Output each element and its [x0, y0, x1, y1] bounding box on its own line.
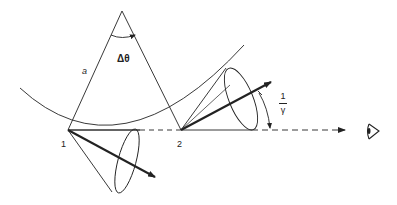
gamma-denominator: γ — [281, 105, 286, 115]
gamma-numerator: 1 — [280, 91, 285, 101]
delta-theta-arc — [111, 35, 135, 38]
point-2-label: 2 — [177, 140, 182, 149]
gamma-fraction-label: 1 γ — [277, 92, 289, 115]
velocity-arrow-1 — [68, 130, 155, 177]
radius-line-2 — [122, 11, 181, 130]
fraction-bar — [279, 103, 287, 104]
radius-label: a — [82, 67, 87, 76]
gamma-angle-arc — [259, 93, 270, 128]
radius-line-1 — [68, 11, 122, 130]
emission-cone-1 — [68, 127, 155, 195]
observer-eye-icon — [368, 124, 380, 139]
synchrotron-diagram — [0, 0, 397, 205]
point-1-label: 1 — [61, 140, 66, 149]
angle-label: Δθ — [117, 54, 130, 64]
emission-cone-2 — [181, 64, 271, 134]
